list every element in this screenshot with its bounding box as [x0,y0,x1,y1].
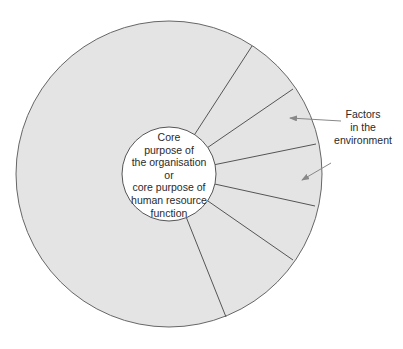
core-line: the organisation [122,156,216,169]
factors-line: Factors [326,108,400,121]
core-line: Core [122,131,216,144]
core-purpose-label: Core purpose of the organisation or core… [122,131,216,219]
factors-line: environment [326,134,400,147]
core-line: human resource [122,194,216,207]
core-line: function [122,207,216,220]
core-line: or [122,169,216,182]
core-line: purpose of [122,144,216,157]
core-line: core purpose of [122,181,216,194]
factors-line: in the [326,121,400,134]
factors-label: Factors in the environment [326,108,400,147]
